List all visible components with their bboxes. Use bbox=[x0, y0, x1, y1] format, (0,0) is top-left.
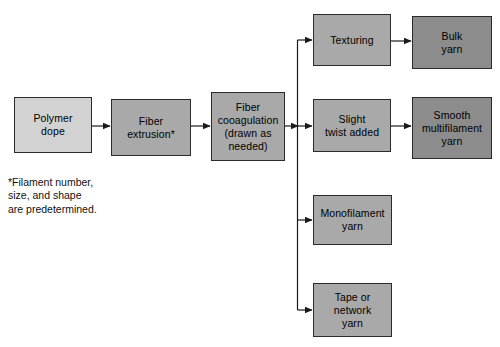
node-bulk-yarn[interactable]: Bulk yarn bbox=[412, 16, 492, 69]
node-fiber-cooagulation[interactable]: Fiber cooagulation (drawn as needed) bbox=[211, 92, 285, 161]
node-smooth-multifilament-yarn[interactable]: Smooth multifilament yarn bbox=[412, 97, 492, 159]
flowchart-canvas: Polymer dope Fiber extrusion* Fiber cooa… bbox=[0, 0, 500, 347]
node-tape-or-network-yarn[interactable]: Tape or network yarn bbox=[313, 283, 392, 337]
node-slight-twist-added[interactable]: Slight twist added bbox=[313, 99, 391, 152]
footnote-filament-note: *Filament number, size, and shape are pr… bbox=[8, 176, 97, 216]
node-texturing[interactable]: Texturing bbox=[313, 14, 391, 66]
node-monofilament-yarn[interactable]: Monofilament yarn bbox=[313, 195, 392, 245]
node-fiber-extrusion[interactable]: Fiber extrusion* bbox=[111, 99, 191, 156]
node-polymer-dope[interactable]: Polymer dope bbox=[14, 97, 92, 153]
